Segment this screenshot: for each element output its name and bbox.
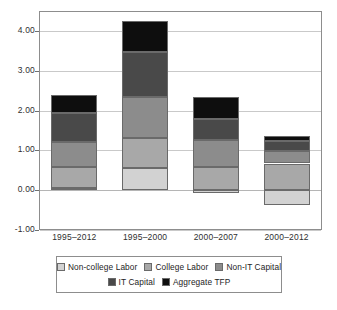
y-axis-tick-label: 3.00 — [0, 65, 35, 75]
bar-segment[interactable] — [51, 142, 97, 167]
bar-segment[interactable] — [51, 188, 97, 190]
bar-segment[interactable] — [122, 138, 168, 169]
bars-layer — [39, 11, 322, 230]
x-axis-tick-label: 2000–2007 — [181, 232, 252, 242]
bar-segment[interactable] — [193, 97, 239, 119]
legend-label: Non-IT Capital — [226, 261, 281, 273]
gridline--1.00 — [40, 230, 321, 231]
bar-segment[interactable] — [193, 190, 239, 193]
y-axis-tick-label: 1.00 — [0, 144, 35, 154]
y-axis-tick-label: 0.00 — [0, 184, 35, 194]
legend-row: IT CapitalAggregate TFP — [60, 276, 278, 288]
bar-segment[interactable] — [193, 140, 239, 167]
legend-item[interactable]: Non-college Labor — [57, 261, 138, 273]
x-axis-tick-label: 2000–2012 — [251, 232, 322, 242]
y-axis-tick-label: 2.00 — [0, 105, 35, 115]
bar-segment[interactable] — [193, 167, 239, 190]
bar-segment[interactable] — [264, 136, 310, 141]
chart-legend: Non-college LaborCollege LaborNon-IT Cap… — [56, 256, 282, 293]
legend-item[interactable]: College Labor — [144, 261, 208, 273]
x-axis-tick-label: 1995–2000 — [110, 232, 181, 242]
bar-segment[interactable] — [122, 168, 168, 190]
legend-item[interactable]: Non-IT Capital — [215, 261, 281, 273]
bar-group[interactable] — [193, 11, 239, 230]
legend-swatch-icon — [162, 278, 170, 286]
bar-group[interactable] — [264, 11, 310, 230]
legend-label: Non-college Labor — [68, 261, 138, 273]
bar-segment[interactable] — [264, 151, 310, 163]
legend-swatch-icon — [215, 263, 223, 271]
legend-row: Non-college LaborCollege LaborNon-IT Cap… — [60, 261, 278, 273]
legend-label: Aggregate TFP — [173, 276, 230, 288]
bar-group[interactable] — [122, 11, 168, 230]
y-axis-tick-label: 4.00 — [0, 25, 35, 35]
bar-segment[interactable] — [51, 113, 97, 142]
bar-segment[interactable] — [264, 164, 310, 191]
bar-segment[interactable] — [264, 190, 310, 205]
legend-item[interactable]: Aggregate TFP — [162, 276, 230, 288]
bar-segment[interactable] — [51, 167, 97, 189]
legend-label: IT Capital — [119, 276, 155, 288]
bar-segment[interactable] — [193, 119, 239, 141]
bar-group[interactable] — [51, 11, 97, 230]
bar-segment[interactable] — [122, 97, 168, 138]
legend-item[interactable]: IT Capital — [108, 276, 155, 288]
legend-swatch-icon — [144, 263, 152, 271]
legend-label: College Labor — [155, 261, 208, 273]
bar-segment[interactable] — [51, 95, 97, 113]
legend-swatch-icon — [57, 263, 65, 271]
y-axis-tick-mark — [35, 230, 39, 231]
stacked-bar-chart-figure: -1.000.001.002.003.004.00 1995–20121995–… — [0, 0, 337, 310]
bar-segment[interactable] — [264, 141, 310, 151]
x-axis-tick-label: 1995–2012 — [39, 232, 110, 242]
y-axis-tick-label: -1.00 — [0, 224, 35, 234]
legend-swatch-icon — [108, 278, 116, 286]
x-axis: 1995–20121995–20002000–20072000–2012 — [39, 232, 322, 248]
bar-segment[interactable] — [122, 21, 168, 52]
bar-segment[interactable] — [122, 52, 168, 97]
